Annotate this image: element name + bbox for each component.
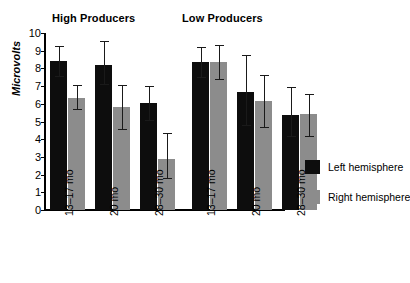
x-tick-label: 13–17 mo (205, 169, 217, 216)
error-bar (122, 85, 123, 128)
error-bar (309, 94, 310, 136)
panel-title-low-producers: Low Producers (182, 12, 263, 24)
error-bar-cap (163, 133, 172, 134)
error-bar (219, 45, 220, 79)
error-bar (59, 46, 60, 76)
y-axis-title: Microvolts (10, 41, 22, 96)
error-bar-cap (287, 136, 296, 137)
error-bar-cap (305, 94, 314, 95)
chart-legend: Left hemisphereRight hemisphere (305, 160, 410, 220)
error-bar (291, 87, 292, 136)
error-bar-cap (145, 86, 154, 87)
error-bar-cap (242, 55, 251, 56)
error-bar-cap (145, 120, 154, 121)
error-bar (104, 41, 105, 84)
legend-label: Left hemisphere (328, 161, 403, 173)
error-bar-cap (73, 85, 82, 86)
y-tick-mark (41, 68, 45, 69)
legend-swatch (305, 190, 320, 204)
error-bar (264, 75, 265, 126)
panel-title-high-producers: High Producers (52, 12, 135, 24)
y-tick-mark (41, 139, 45, 140)
y-tick-label: 10 (29, 28, 41, 39)
legend-item: Right hemisphere (305, 190, 410, 204)
y-tick-mark (41, 210, 45, 211)
error-bar-cap (215, 79, 224, 80)
legend-label: Right hemisphere (328, 191, 410, 203)
error-bar-cap (260, 127, 269, 128)
y-tick-mark (41, 157, 45, 158)
x-tick-label: 28–30 mo (153, 169, 165, 216)
error-bar-cap (197, 77, 206, 78)
error-bar-cap (100, 41, 109, 42)
error-bar (167, 133, 168, 178)
error-bar-cap (55, 76, 64, 77)
legend-item: Left hemisphere (305, 160, 410, 174)
error-bar (77, 85, 78, 109)
x-tick-label: 13–17 mo (63, 169, 75, 216)
y-tick-mark (41, 175, 45, 176)
error-bar (201, 47, 202, 77)
legend-swatch (305, 160, 320, 174)
error-bar (246, 55, 247, 125)
y-tick-mark (41, 104, 45, 105)
y-tick-mark (41, 122, 45, 123)
error-bar-cap (287, 87, 296, 88)
error-bar-cap (55, 46, 64, 47)
plot-area: 012345678910 (45, 33, 285, 210)
error-bar (149, 86, 150, 120)
error-bar-cap (242, 125, 251, 126)
error-bar-cap (100, 84, 109, 85)
error-bar-cap (215, 45, 224, 46)
error-bar-cap (118, 129, 127, 130)
error-bar-cap (305, 136, 314, 137)
error-bar-cap (118, 85, 127, 86)
error-bar-cap (260, 75, 269, 76)
error-bar-cap (197, 47, 206, 48)
bar-chart-figure: High Producers Low Producers Microvolts … (0, 0, 410, 283)
x-tick-label: 20 mo (250, 187, 262, 216)
y-tick-mark (41, 86, 45, 87)
y-tick-mark (41, 192, 45, 193)
y-tick-mark (41, 33, 45, 34)
x-tick-label: 20 mo (108, 187, 120, 216)
error-bar-cap (73, 109, 82, 110)
y-tick-mark (41, 51, 45, 52)
